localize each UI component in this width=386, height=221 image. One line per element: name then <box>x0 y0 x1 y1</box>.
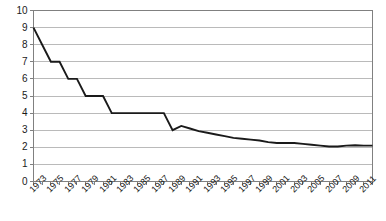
y-axis-tick-label: 2 <box>0 142 28 152</box>
y-axis-tick-label: 6 <box>0 74 28 84</box>
y-axis-tick-label: 7 <box>0 57 28 67</box>
y-axis-tick-label: 4 <box>0 108 28 118</box>
y-axis-tick-label: 0 <box>0 177 28 187</box>
series-line <box>34 28 373 147</box>
y-axis-tick-label: 8 <box>0 40 28 50</box>
y-axis-tick-label: 1 <box>0 159 28 169</box>
line-chart: 012345678910 197319751977197919811983198… <box>0 0 386 221</box>
y-axis-tick-label: 9 <box>0 23 28 33</box>
y-axis-tick-label: 3 <box>0 125 28 135</box>
y-axis-tick-label: 5 <box>0 91 28 101</box>
y-axis-tick-label: 10 <box>0 6 28 16</box>
data-series <box>34 28 373 147</box>
gridlines <box>34 11 373 182</box>
